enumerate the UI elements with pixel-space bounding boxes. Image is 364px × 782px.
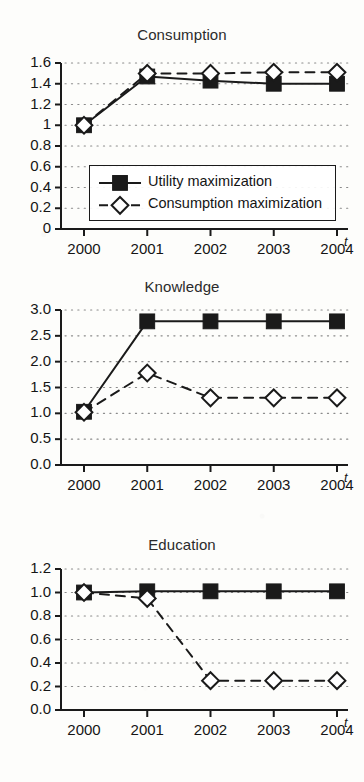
x-tick-label: 2003 [239,721,309,738]
x-tick-label: 2004 [302,721,364,738]
x-tick-label: 2004 [302,240,364,257]
x-tick-label: 2003 [239,240,309,257]
marker-filled-square-icon [203,584,218,599]
x-tick-label: 2001 [112,721,182,738]
x-axis-variable-label: t [344,470,348,485]
y-tick-label: 2.5 [0,326,51,343]
x-tick-label: 2001 [112,240,182,257]
y-tick-label: 1.2 [0,559,51,576]
y-tick-label: 1.6 [0,53,51,70]
y-tick-label: 0.2 [0,677,51,694]
chart-svg [0,0,364,262]
y-tick-label: 0.8 [0,136,51,153]
y-tick-label: 0.6 [0,630,51,647]
marker-filled-square-icon [330,584,345,599]
x-tick-label: 2000 [49,476,119,493]
marker-open-diamond-icon [265,389,282,406]
marker-open-diamond-icon [202,672,219,689]
x-tick-label: 2001 [112,476,182,493]
x-tick-label: 2002 [176,476,246,493]
panel-consumption: Consumption 00.20.40.60.811.21.41.620002… [0,0,364,262]
y-tick-label: 0.6 [0,157,51,174]
plot-area-consumption: 00.20.40.60.811.21.41.620002001200220032… [0,0,364,262]
y-tick-label: 1.0 [0,403,51,420]
series-line-consumption [84,593,337,681]
legend-filled-square-icon [113,175,128,190]
y-tick-label: 0.2 [0,198,51,215]
y-tick-label: 0.4 [0,653,51,670]
marker-filled-square-icon [330,314,345,329]
x-tick-label: 2000 [49,240,119,257]
marker-open-diamond-icon [329,672,346,689]
marker-filled-square-icon [266,314,281,329]
x-tick-label: 2002 [176,721,246,738]
chart-svg [0,524,364,782]
y-tick-label: 1.0 [0,583,51,600]
panel-education: Education 0.00.20.40.60.81.01.2200020012… [0,524,364,782]
x-tick-label: 2003 [239,476,309,493]
y-tick-label: 3.0 [0,300,51,317]
y-tick-label: 0.0 [0,455,51,472]
y-tick-label: 0.5 [0,429,51,446]
marker-filled-square-icon [140,314,155,329]
y-tick-label: 2.0 [0,352,51,369]
y-tick-label: 1.5 [0,378,51,395]
marker-open-diamond-icon [139,365,156,382]
three-panel-line-chart-figure: Consumption 00.20.40.60.811.21.41.620002… [0,0,364,782]
panel-knowledge: Knowledge 0.00.51.01.52.02.53.0200020012… [0,262,364,524]
marker-open-diamond-icon [329,389,346,406]
y-tick-label: 1 [0,115,51,132]
legend-open-diamond-icon [112,197,129,214]
x-tick-label: 2000 [49,721,119,738]
x-axis-variable-label: t [344,715,348,730]
marker-open-diamond-icon [202,389,219,406]
plot-area-knowledge: 0.00.51.01.52.02.53.02000200120022003200… [0,262,364,524]
marker-open-diamond-icon [265,672,282,689]
marker-filled-square-icon [266,584,281,599]
legend-label-consumption-maximization: Consumption maximization [148,195,322,211]
y-tick-label: 1.2 [0,95,51,112]
y-tick-label: 0.0 [0,700,51,717]
x-tick-label: 2004 [302,476,364,493]
y-tick-label: 0 [0,219,51,236]
y-tick-label: 0.8 [0,606,51,623]
marker-filled-square-icon [203,314,218,329]
x-axis-variable-label: t [344,234,348,249]
x-tick-label: 2002 [176,240,246,257]
y-tick-label: 1.4 [0,74,51,91]
y-tick-label: 0.4 [0,178,51,195]
plot-area-education: 0.00.20.40.60.81.01.22000200120022003200… [0,524,364,782]
legend-label-utility-maximization: Utility maximization [148,173,272,189]
